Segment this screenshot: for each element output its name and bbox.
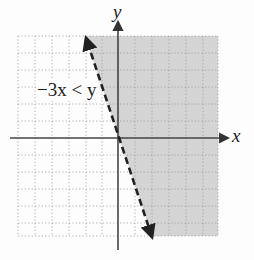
x-axis-label: x <box>232 125 240 147</box>
inequality-label: −3x < y <box>36 79 97 101</box>
y-axis-label: y <box>113 1 121 23</box>
inequality-graph <box>0 0 254 260</box>
